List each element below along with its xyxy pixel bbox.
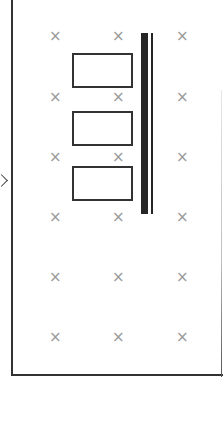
grid-marker-icon: × bbox=[49, 271, 61, 283]
grid-marker-icon: × bbox=[112, 151, 124, 163]
grid-marker-icon: × bbox=[176, 271, 188, 283]
layout-box[interactable] bbox=[72, 166, 133, 201]
grid-marker-icon: × bbox=[176, 91, 188, 103]
grid-marker-icon: × bbox=[112, 331, 124, 343]
grid-marker-icon: × bbox=[49, 331, 61, 343]
grid-marker-icon: × bbox=[49, 91, 61, 103]
layout-box[interactable] bbox=[72, 111, 133, 146]
grid-marker-icon: × bbox=[49, 211, 61, 223]
panel-right-edge bbox=[221, 90, 222, 377]
grid-marker-icon: × bbox=[112, 91, 124, 103]
grid-marker-icon: × bbox=[112, 271, 124, 283]
grid-marker-icon: × bbox=[176, 211, 188, 223]
grid-marker-icon: × bbox=[49, 30, 61, 42]
grid-marker-icon: × bbox=[176, 331, 188, 343]
grid-marker-icon: × bbox=[176, 151, 188, 163]
grid-marker-icon: × bbox=[176, 30, 188, 42]
layout-box[interactable] bbox=[72, 53, 133, 88]
grid-marker-icon: × bbox=[112, 30, 124, 42]
thick-bar bbox=[141, 33, 148, 214]
chevron-right-icon[interactable] bbox=[0, 174, 8, 187]
thin-bar bbox=[151, 33, 153, 214]
grid-marker-icon: × bbox=[112, 211, 124, 223]
grid-marker-icon: × bbox=[49, 151, 61, 163]
